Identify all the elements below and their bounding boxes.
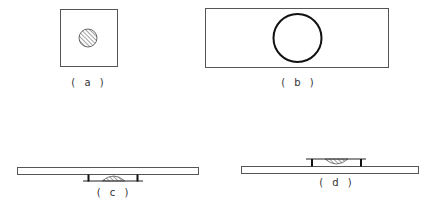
panel-b (206, 9, 389, 68)
rectangular-slide (206, 9, 389, 68)
plate-d (242, 167, 419, 174)
panel-c-label: ( c ) (97, 188, 132, 198)
hatched-droplet (79, 29, 97, 47)
panel-b-label: ( b ) (281, 78, 317, 88)
sitting-droplet (102, 176, 125, 181)
panel-d (242, 159, 419, 174)
hanging-droplet (325, 159, 348, 164)
diagram-figure (0, 0, 431, 212)
spacer-left-c (88, 175, 90, 182)
large-circle (274, 14, 322, 62)
panel-a (61, 10, 118, 67)
panel-d-label: ( d ) (319, 178, 355, 188)
panel-a-label: ( a ) (71, 78, 106, 88)
spacer-right-d (360, 159, 362, 167)
spacer-right-c (137, 175, 139, 182)
panel-c (18, 168, 199, 182)
spacer-left-d (311, 159, 313, 167)
plate-c (18, 168, 199, 175)
